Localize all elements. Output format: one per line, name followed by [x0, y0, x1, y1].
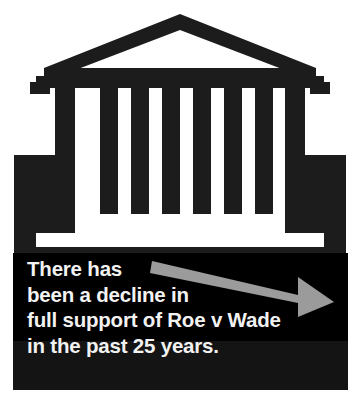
caption-line-4: in the past 25 years.: [27, 333, 347, 359]
column-4: [193, 88, 211, 214]
caption-line-1: There has: [27, 256, 347, 282]
infographic-root: There has been a decline in full support…: [0, 0, 360, 408]
caption-text: There has been a decline in full support…: [27, 256, 347, 358]
column-5: [224, 88, 242, 214]
caption-line-3: full support of Roe v Wade: [27, 307, 347, 333]
bottom-margin: [0, 390, 360, 408]
column-3: [162, 88, 180, 214]
caption-line-2: been a decline in: [27, 282, 347, 308]
column-1: [100, 88, 118, 214]
column-group: [100, 88, 273, 214]
caption-panel: There has been a decline in full support…: [13, 253, 348, 390]
column-6: [255, 88, 273, 214]
column-2: [131, 88, 149, 214]
